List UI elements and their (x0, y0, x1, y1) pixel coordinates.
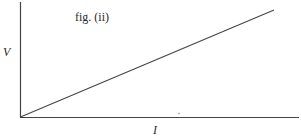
y-axis-label: V (3, 45, 12, 59)
stray-mark (178, 113, 180, 114)
data-line (21, 10, 275, 117)
x-axis-label: I (152, 123, 158, 137)
graph: fig. (ii) V I (0, 0, 301, 138)
figure-title: fig. (ii) (75, 10, 109, 24)
